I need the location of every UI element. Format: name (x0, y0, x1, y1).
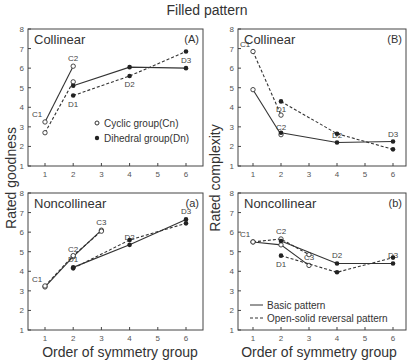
y-tick-label: 2 (230, 142, 235, 151)
y-tick-label: 3 (20, 287, 25, 296)
filled-circle-marker (279, 99, 284, 104)
y-tick-label: 5 (230, 248, 235, 257)
x-tick-label: 5 (363, 334, 368, 343)
filled-circle-marker (335, 261, 340, 266)
y-tick-label: 2 (20, 306, 25, 315)
plot-frame (238, 29, 406, 166)
y-tick-label: 1 (230, 162, 235, 171)
y-tick-label: 1 (230, 326, 235, 335)
point-label: D1 (68, 255, 79, 264)
x-tick-label: 5 (363, 170, 368, 179)
x-tick-label: 4 (127, 334, 132, 343)
point-label: D3 (181, 207, 192, 216)
x-tick-label: 6 (391, 334, 396, 343)
point-label: D1 (276, 260, 287, 269)
plot-frame (28, 29, 203, 166)
filled-circle-marker (71, 93, 76, 98)
y-tick-label: 5 (20, 248, 25, 257)
y-tick-label: 8 (230, 25, 235, 34)
legend-open-circle-icon (95, 121, 99, 125)
filled-circle-marker (335, 270, 340, 275)
filled-circle-marker (127, 74, 132, 79)
filled-circle-marker (184, 66, 189, 71)
x-tick-label: 3 (99, 334, 104, 343)
panel-label: (b) (389, 197, 402, 209)
filled-circle-marker (279, 130, 284, 135)
y-tick-label: 4 (230, 103, 235, 112)
y-tick-label: 2 (20, 142, 25, 151)
x-tick-label: 3 (99, 170, 104, 179)
open-circle-marker (251, 49, 255, 53)
open-circle-marker (43, 131, 47, 135)
y-tick-label: 5 (230, 84, 235, 93)
filled-circle-marker (335, 131, 340, 136)
x-tick-label: 3 (307, 334, 312, 343)
point-label: C1 (32, 275, 43, 284)
x-tick-label: 6 (184, 170, 189, 179)
filled-circle-marker (184, 217, 189, 222)
y-tick-label: 1 (20, 162, 25, 171)
point-label: C1 (240, 230, 251, 239)
point-label: C1 (240, 40, 251, 49)
y-tick-label: 4 (20, 267, 25, 276)
legend-basic-label: Basic pattern (267, 300, 325, 311)
panel-title: Collinear (244, 32, 296, 47)
x-tick-label: 5 (156, 334, 161, 343)
chart-panel: 12345678123456Collinear(B)C2C1D2D3D1 (230, 25, 406, 179)
filled-circle-marker (335, 140, 340, 145)
y-tick-label: 6 (230, 228, 235, 237)
y-tick-label: 3 (230, 287, 235, 296)
filled-circle-marker (184, 221, 189, 226)
panel-title: Noncollinear (244, 196, 317, 211)
filled-circle-marker (71, 266, 76, 271)
point-label: D3 (181, 56, 192, 65)
y-tick-label: 7 (20, 209, 25, 218)
y-tick-label: 8 (20, 25, 25, 34)
y-tick-label: 5 (20, 84, 25, 93)
y-tick-label: 8 (20, 189, 25, 198)
x-tick-label: 1 (251, 170, 256, 179)
point-label: C2 (276, 123, 287, 132)
point-label: C3 (96, 218, 107, 227)
filled-circle-marker (391, 147, 396, 152)
point-label: D3 (388, 130, 399, 139)
filled-circle-marker (279, 253, 284, 258)
filled-circle-marker (391, 139, 396, 144)
filled-circle-marker (127, 65, 132, 70)
x-tick-label: 2 (71, 170, 76, 179)
point-label: C2 (276, 227, 287, 236)
x-tick-label: 4 (335, 170, 340, 179)
x-tick-label: 1 (43, 170, 48, 179)
open-circle-marker (71, 80, 75, 84)
point-label: D1 (68, 100, 79, 109)
filled-circle-marker (391, 255, 396, 260)
y-tick-label: 6 (20, 228, 25, 237)
x-tick-label: 5 (156, 170, 161, 179)
point-label: C1 (32, 110, 43, 119)
open-circle-marker (251, 87, 255, 91)
panel-title: Noncollinear (34, 196, 107, 211)
x-tick-label: 6 (391, 170, 396, 179)
x-tick-label: 4 (335, 334, 340, 343)
legend-reversal-label: Open-solid reversal pattern (267, 313, 388, 324)
y-tick-label: 3 (20, 123, 25, 132)
legend-filled-circle-icon (95, 136, 99, 140)
y-tick-label: 2 (230, 306, 235, 315)
x-tick-label: 6 (184, 334, 189, 343)
point-label: C2 (68, 54, 79, 63)
legend-cyclic-label: Cyclic group(Cn) (104, 118, 178, 129)
open-circle-marker (279, 243, 283, 247)
x-tick-label: 2 (279, 334, 284, 343)
panel-label: (B) (387, 33, 402, 45)
x-tick-label: 1 (251, 334, 256, 343)
x-tick-label: 4 (127, 170, 132, 179)
open-circle-marker (99, 229, 103, 233)
open-circle-marker (43, 284, 47, 288)
y-tick-label: 7 (230, 45, 235, 54)
x-tick-label: 2 (71, 334, 76, 343)
filled-circle-marker (127, 238, 132, 243)
y-tick-label: 7 (230, 209, 235, 218)
open-circle-marker (43, 120, 47, 124)
filled-circle-marker (184, 49, 189, 54)
point-label: D2 (124, 80, 135, 89)
